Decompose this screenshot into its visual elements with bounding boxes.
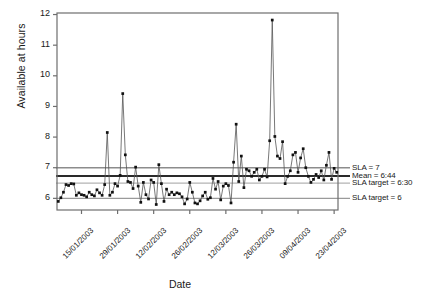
series-marker bbox=[137, 185, 140, 188]
series-marker bbox=[152, 181, 155, 184]
series-marker bbox=[268, 139, 271, 142]
series-marker bbox=[328, 151, 331, 154]
series-marker bbox=[186, 198, 189, 201]
series-marker bbox=[194, 202, 197, 205]
series-marker bbox=[85, 195, 88, 198]
series-marker bbox=[237, 180, 240, 183]
x-axis-ticks bbox=[81, 210, 334, 214]
series-marker bbox=[199, 199, 202, 202]
series-marker bbox=[83, 194, 86, 197]
series-marker bbox=[307, 175, 310, 178]
series-marker bbox=[147, 198, 150, 201]
series-marker bbox=[90, 193, 93, 196]
series-marker bbox=[145, 193, 148, 196]
series-marker bbox=[165, 188, 168, 191]
series-marker bbox=[315, 173, 318, 176]
y-axis-title: Available at hours bbox=[15, 1, 27, 131]
series-marker bbox=[116, 185, 119, 188]
series-marker bbox=[292, 154, 295, 157]
series-marker bbox=[160, 182, 163, 185]
y-tick-label: 12 bbox=[32, 8, 50, 18]
series-marker bbox=[245, 168, 248, 171]
series-marker bbox=[132, 187, 135, 190]
series-marker bbox=[310, 181, 313, 184]
series-marker bbox=[212, 177, 215, 180]
series-marker bbox=[294, 151, 297, 154]
series-marker bbox=[62, 191, 65, 194]
series-marker bbox=[255, 168, 258, 171]
y-tick-label: 9 bbox=[32, 100, 50, 110]
series-marker bbox=[273, 135, 276, 138]
series-marker bbox=[60, 196, 63, 199]
series-marker bbox=[320, 169, 323, 172]
series-marker bbox=[139, 201, 142, 204]
series-marker bbox=[276, 155, 279, 158]
series-marker bbox=[70, 182, 73, 185]
series-marker bbox=[335, 171, 338, 174]
series-marker bbox=[279, 157, 282, 160]
series-marker bbox=[103, 183, 106, 186]
series-marker bbox=[232, 161, 235, 164]
series-marker bbox=[124, 154, 127, 157]
series-marker bbox=[204, 191, 207, 194]
series-marker bbox=[240, 155, 243, 158]
series-marker bbox=[330, 178, 333, 181]
y-tick-label: 8 bbox=[32, 131, 50, 141]
series-marker bbox=[109, 194, 112, 197]
series-marker bbox=[217, 180, 220, 183]
series-marker bbox=[101, 194, 104, 197]
series-marker bbox=[230, 202, 233, 205]
legend-item-4: SLA target = 6 bbox=[352, 193, 402, 202]
series-marker bbox=[96, 188, 99, 191]
series-marker bbox=[98, 191, 101, 194]
series-marker bbox=[286, 175, 289, 178]
series-marker bbox=[219, 199, 222, 202]
series-marker bbox=[142, 181, 145, 184]
series-marker bbox=[88, 191, 91, 194]
series-marker bbox=[299, 157, 302, 160]
series-marker bbox=[312, 178, 315, 181]
series-marker bbox=[75, 194, 78, 197]
y-tick-label: 10 bbox=[32, 69, 50, 79]
series-marker bbox=[266, 176, 269, 179]
plot-frame bbox=[57, 13, 338, 210]
series-marker bbox=[181, 195, 184, 198]
series-marker bbox=[258, 179, 261, 182]
series-marker bbox=[261, 175, 264, 178]
series-marker bbox=[196, 203, 199, 206]
series-marker bbox=[155, 203, 158, 206]
series-marker bbox=[271, 19, 274, 22]
series-marker bbox=[150, 179, 153, 182]
x-axis-title: Date bbox=[0, 278, 360, 290]
chart-container: Available at hours Date 6789101112 15/01… bbox=[0, 0, 422, 302]
series-marker bbox=[168, 193, 171, 196]
series-marker bbox=[127, 180, 130, 183]
series-marker bbox=[78, 191, 81, 194]
series-marker bbox=[302, 147, 305, 150]
series-marker bbox=[284, 182, 287, 185]
series-marker bbox=[191, 191, 194, 194]
series-marker bbox=[214, 188, 217, 191]
series-marker bbox=[225, 182, 228, 185]
series-marker bbox=[72, 183, 75, 186]
series-marker bbox=[325, 164, 328, 167]
series-marker bbox=[134, 166, 137, 169]
series-marker bbox=[173, 193, 176, 196]
series-marker bbox=[317, 176, 320, 179]
series-marker bbox=[201, 195, 204, 198]
y-tick-label: 7 bbox=[32, 161, 50, 171]
series-marker bbox=[333, 167, 336, 170]
series-marker bbox=[297, 171, 300, 174]
series-marker bbox=[129, 181, 132, 184]
series-marker bbox=[227, 184, 230, 187]
series-marker bbox=[222, 185, 225, 188]
series-marker bbox=[121, 92, 124, 95]
series-marker bbox=[209, 196, 212, 199]
series-marker bbox=[111, 191, 114, 194]
data-series-group bbox=[57, 19, 338, 206]
series-marker bbox=[170, 191, 173, 194]
y-tick-label: 6 bbox=[32, 192, 50, 202]
series-marker bbox=[114, 182, 117, 185]
series-marker bbox=[253, 171, 256, 174]
series-marker bbox=[235, 123, 238, 126]
